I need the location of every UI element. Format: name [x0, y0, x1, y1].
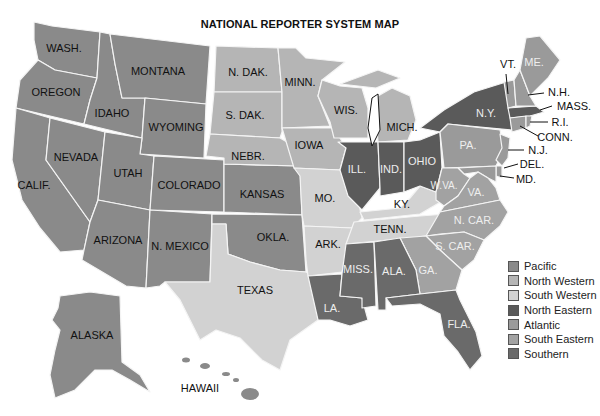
- label-minn: MINN.: [284, 76, 315, 88]
- label-vt: VT.: [500, 58, 516, 70]
- label-montana: MONTANA: [131, 65, 186, 77]
- label-mich: MICH.: [386, 121, 417, 133]
- pointer-del: [504, 164, 518, 168]
- label-ky: KY.: [394, 198, 410, 210]
- label-ri: R.I.: [551, 116, 568, 128]
- swatch-atlantic-icon: [508, 319, 519, 330]
- label-tenn: TENN.: [374, 223, 407, 235]
- legend-item-south-eastern: South Eastern: [508, 332, 597, 347]
- legend-label: South Eastern: [524, 333, 594, 345]
- swatch-north-eastern-icon: [508, 305, 519, 316]
- legend-item-southern: Southern: [508, 347, 597, 362]
- state-fla[interactable]: [386, 290, 482, 370]
- label-ga: GA.: [419, 264, 438, 276]
- label-nj: N.J.: [528, 144, 548, 156]
- legend-item-pacific: Pacific: [508, 259, 597, 274]
- label-iowa: IOWA: [295, 139, 325, 151]
- legend-label: North Western: [524, 275, 595, 287]
- label-hawaii: HAWAII: [181, 382, 219, 394]
- legend-item-north-western: North Western: [508, 274, 597, 289]
- label-wash: WASH.: [46, 42, 82, 54]
- label-me: ME.: [524, 56, 544, 68]
- label-mass: MASS.: [557, 100, 591, 112]
- label-nevada: NEVADA: [54, 151, 99, 163]
- label-wva: W.VA.: [430, 180, 457, 191]
- state-ny[interactable]: [420, 82, 512, 132]
- label-ala: ALA.: [382, 265, 406, 277]
- label-texas: TEXAS: [237, 284, 273, 296]
- label-miss: MISS.: [343, 263, 373, 275]
- label-utah: UTAH: [113, 167, 142, 179]
- state-alaska[interactable]: [50, 292, 150, 398]
- label-wis: WIS.: [334, 104, 358, 116]
- label-ill: ILL.: [348, 163, 366, 175]
- pointer-mass: [540, 106, 552, 110]
- label-ark: ARK.: [315, 238, 341, 250]
- legend-item-atlantic: Atlantic: [508, 317, 597, 332]
- state-conn[interactable]: [510, 116, 526, 132]
- label-oregon: OREGON: [32, 86, 81, 98]
- label-nmexico: N. MEXICO: [151, 240, 209, 252]
- swatch-pacific-icon: [508, 261, 519, 272]
- label-ind: IND.: [380, 163, 402, 175]
- label-arizona: ARIZONA: [94, 234, 144, 246]
- label-pa: PA.: [460, 139, 477, 151]
- label-mo: MO.: [315, 192, 336, 204]
- label-idaho: IDAHO: [95, 107, 130, 119]
- label-kansas: KANSAS: [240, 188, 285, 200]
- label-md: MD.: [516, 173, 536, 185]
- label-nebr: NEBR.: [231, 150, 265, 162]
- legend-label: South Western: [524, 289, 597, 301]
- legend-label: North Eastern: [524, 304, 592, 316]
- label-ndak: N. DAK.: [228, 66, 268, 78]
- swatch-southern-icon: [508, 348, 519, 359]
- label-nh: N.H.: [548, 86, 570, 98]
- label-okla: OKLA.: [257, 231, 289, 243]
- label-colorado: COLORADO: [158, 179, 221, 191]
- pointer-conn: [520, 126, 538, 136]
- label-conn: CONN.: [537, 131, 572, 143]
- swatch-south-eastern-icon: [508, 334, 519, 345]
- label-va: VA.: [468, 186, 485, 198]
- legend-label: Pacific: [524, 260, 556, 272]
- label-ohio: OHIO: [408, 155, 437, 167]
- label-scar: S. CAR.: [435, 240, 475, 252]
- label-alaska: ALASKA: [71, 329, 114, 341]
- label-ny: N.Y.: [476, 107, 496, 119]
- swatch-north-western-icon: [508, 275, 519, 286]
- label-sdak: S. DAK.: [225, 109, 264, 121]
- legend-label: Atlantic: [524, 319, 560, 331]
- legend-label: Southern: [524, 348, 569, 360]
- label-la: LA.: [324, 302, 341, 314]
- label-ncar: N. CAR.: [454, 214, 494, 226]
- swatch-south-western-icon: [508, 290, 519, 301]
- label-calif: CALIF.: [17, 179, 50, 191]
- legend: Pacific North Western South Western Nort…: [508, 259, 597, 361]
- label-del: DEL.: [520, 158, 544, 170]
- legend-item-north-eastern: North Eastern: [508, 303, 597, 318]
- label-wyoming: WYOMING: [149, 121, 204, 133]
- label-fla: FLA.: [447, 318, 470, 330]
- legend-item-south-western: South Western: [508, 288, 597, 303]
